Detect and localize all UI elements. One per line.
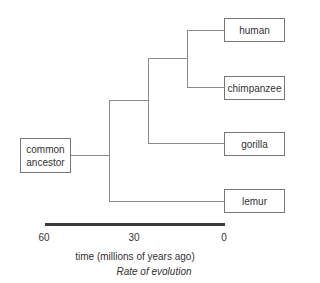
branch-human (187, 30, 224, 31)
tick-label-60: 60 (38, 232, 49, 243)
node-lemur: lemur (224, 189, 285, 213)
branch-lemur (109, 201, 224, 202)
root-label-line1: common (26, 143, 64, 156)
node-common-ancestor: common ancestor (20, 138, 71, 173)
node-chimpanzee: chimpanzee (224, 76, 285, 100)
tick-label-30: 30 (128, 232, 139, 243)
node-human: human (224, 18, 285, 42)
figure-caption: Rate of evolution (116, 266, 191, 277)
branch-root (71, 155, 109, 156)
branch-split-primates (109, 100, 110, 202)
branch-split-apes (148, 58, 149, 144)
branch-apes (109, 100, 148, 101)
node-gorilla: gorilla (224, 132, 285, 156)
branch-chimpanzee (187, 87, 224, 88)
time-axis-bar (45, 223, 225, 226)
leaf-label-lemur: lemur (242, 195, 267, 208)
branch-split-hominini (187, 30, 188, 87)
tick-label-0: 0 (221, 232, 227, 243)
leaf-label-chimpanzee: chimpanzee (228, 82, 282, 95)
axis-title: time (millions of years ago) (75, 251, 194, 262)
branch-gorilla (148, 143, 224, 144)
leaf-label-human: human (239, 24, 270, 37)
leaf-label-gorilla: gorilla (241, 138, 268, 151)
root-label-line2: ancestor (26, 156, 64, 169)
branch-hominini (148, 58, 187, 59)
